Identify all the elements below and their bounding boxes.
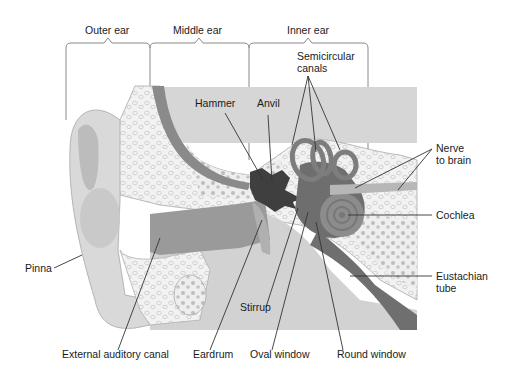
label-eustachian: Eustachian xyxy=(436,270,488,282)
label-anvil: Anvil xyxy=(257,97,280,109)
label-round-window: Round window xyxy=(337,348,406,360)
label-cochlea: Cochlea xyxy=(436,209,475,221)
label-oval-window: Oval window xyxy=(250,348,310,360)
label-semicircular-canals-2: canals xyxy=(297,62,327,74)
ear-anatomy-diagram: Outer ear Middle ear Inner ear Semicircu… xyxy=(0,0,512,381)
label-inner-ear: Inner ear xyxy=(287,24,330,36)
label-outer-ear: Outer ear xyxy=(85,24,130,36)
label-external-auditory-canal: External auditory canal xyxy=(62,348,169,360)
label-eustachian-2: tube xyxy=(436,282,457,294)
label-nerve-2: to brain xyxy=(436,154,471,166)
label-pinna: Pinna xyxy=(25,262,52,274)
label-stirrup: Stirrup xyxy=(240,301,271,313)
label-nerve: Nerve xyxy=(436,142,464,154)
label-eardrum: Eardrum xyxy=(193,348,234,360)
cartilage-island xyxy=(174,275,206,315)
label-semicircular-canals: Semicircular xyxy=(297,50,355,62)
label-hammer: Hammer xyxy=(195,97,236,109)
label-middle-ear: Middle ear xyxy=(173,24,223,36)
